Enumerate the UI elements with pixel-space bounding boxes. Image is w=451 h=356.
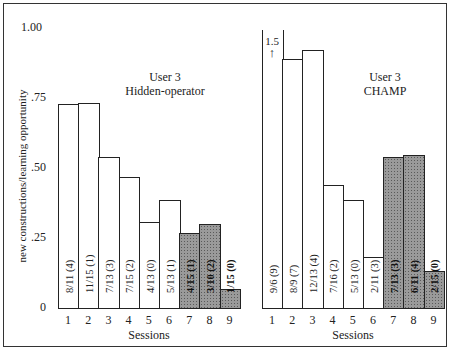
y-tick-label: .75: [16, 90, 46, 105]
x-tick-label: 3: [302, 313, 322, 328]
bar-label: 8/11 (4): [63, 260, 74, 293]
bar-label: 1/15 (0): [225, 259, 236, 293]
x-tick-label: 8: [403, 313, 423, 328]
bar-session-5: 4/13 (0): [139, 222, 161, 309]
x-tick-label: 1: [58, 313, 78, 328]
bar-session-9: 1/15 (0): [220, 289, 242, 309]
bar-session-3: 7/13 (3): [98, 157, 120, 309]
bar-session-5: 5/13 (0): [343, 200, 365, 309]
bar-session-7: 7/13 (3): [383, 157, 405, 309]
bar-label: 7/13 (3): [104, 259, 115, 293]
arrow-up-icon: ↑: [262, 47, 282, 58]
bar-label: 7/16 (2): [328, 259, 339, 293]
bar-session-6: 5/13 (1): [159, 200, 181, 309]
bar-label: 4/15 (1): [184, 259, 195, 293]
overflow-arrow-annotation: 1.5↑: [262, 36, 282, 58]
bar-label: 7/15 (2): [124, 259, 135, 293]
x-tick-label: 5: [139, 313, 159, 328]
bar-label: 11/15 (1): [83, 255, 94, 293]
left-title-line1: User 3: [100, 70, 230, 84]
x-tick-label: 5: [343, 313, 363, 328]
x-tick-label: 7: [179, 313, 199, 328]
bar-session-9: 2/15 (0): [424, 271, 446, 309]
right-x-axis-label: Sessions: [293, 328, 413, 343]
x-tick-label: 6: [363, 313, 383, 328]
bar-label: 4/13 (0): [144, 259, 155, 293]
left-chart-title: User 3 Hidden-operator: [100, 70, 230, 98]
bar-label: 2/11 (3): [368, 260, 379, 293]
left-title-line2: Hidden-operator: [100, 84, 230, 98]
bar-session-2: 11/15 (1): [78, 103, 100, 309]
bar-session-7: 4/15 (1): [179, 233, 201, 309]
bar-label: 2/15 (0): [429, 259, 440, 293]
bar-session-2: 8/9 (7): [282, 59, 304, 309]
left-x-axis-label: Sessions: [89, 328, 209, 343]
x-tick-label: 9: [220, 313, 240, 328]
x-tick-label: 2: [282, 313, 302, 328]
y-axis-label: new constructions/learning opportunity: [16, 76, 28, 276]
bar-session-4: 7/16 (2): [323, 185, 345, 309]
x-tick-label: 9: [424, 313, 444, 328]
right-chart-title: User 3 CHAMP: [345, 70, 425, 98]
bar-session-8: 6/11 (4): [403, 155, 425, 309]
x-tick-label: 4: [323, 313, 343, 328]
right-title-line2: CHAMP: [345, 84, 425, 98]
x-tick-label: 4: [119, 313, 139, 328]
bar-label: 5/13 (1): [164, 259, 175, 293]
bar-session-1: 9/6 (9): [262, 30, 284, 309]
y-tick-label: .50: [16, 160, 46, 175]
bar-label: 8/9 (7): [287, 265, 298, 293]
y-tick-label: .25: [16, 230, 46, 245]
bar-label: 5/13 (0): [348, 259, 359, 293]
bar-session-3: 12/13 (4): [302, 50, 324, 309]
bar-session-1: 8/11 (4): [58, 104, 80, 309]
bar-label: 6/11 (4): [409, 260, 420, 293]
x-tick-label: 3: [98, 313, 118, 328]
bar-label: 7/13 (3): [388, 259, 399, 293]
bar-label: 3/10 (2): [205, 259, 216, 293]
right-title-line1: User 3: [345, 70, 425, 84]
bar-session-4: 7/15 (2): [119, 177, 141, 309]
bar-label: 9/6 (9): [267, 265, 278, 293]
x-tick-label: 2: [78, 313, 98, 328]
x-tick-label: 1: [262, 313, 282, 328]
y-tick-label: 0: [16, 300, 46, 315]
x-tick-label: 8: [199, 313, 219, 328]
bar-label: 12/13 (4): [308, 254, 319, 293]
x-tick-label: 6: [159, 313, 179, 328]
bar-session-8: 3/10 (2): [199, 224, 221, 309]
x-tick-label: 7: [383, 313, 403, 328]
y-tick-label: 1.00: [12, 20, 42, 35]
bar-session-6: 2/11 (3): [363, 257, 385, 309]
